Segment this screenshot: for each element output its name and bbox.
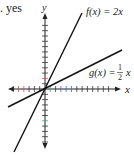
svg-text:2: 2	[118, 73, 122, 82]
y-axis	[42, 13, 48, 149]
svg-text:x: x	[125, 67, 131, 78]
svg-text:1: 1	[118, 63, 122, 72]
y-axis-label: y	[41, 2, 47, 13]
x-axis-label: x	[124, 83, 130, 95]
y-axis-up-arrow-icon	[43, 13, 48, 19]
line-g	[8, 50, 122, 107]
coordinate-plot: x y	[0, 0, 134, 156]
y-axis-down-arrow-icon	[43, 143, 48, 149]
x-axis	[8, 86, 121, 92]
g-label: g(x) = 1 2 x	[89, 63, 131, 82]
f-label: f(x) = 2x	[86, 6, 123, 18]
svg-text:g(x) =: g(x) =	[89, 67, 116, 79]
x-axis-right-arrow-icon	[115, 87, 121, 92]
